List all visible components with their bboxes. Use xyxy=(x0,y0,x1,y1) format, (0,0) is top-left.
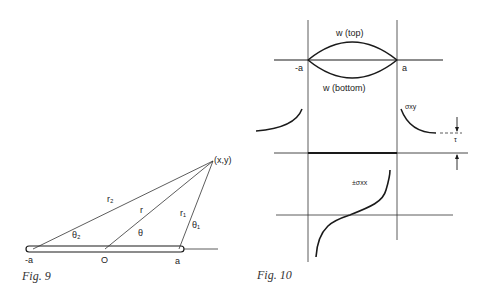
ray-r2 xyxy=(33,161,213,249)
fig10-caption: Fig. 10 xyxy=(256,268,292,282)
sigma-xx-label: ±σxx xyxy=(352,179,368,186)
w-top-curve xyxy=(308,42,397,60)
tau-arrowhead-up-icon xyxy=(455,154,459,159)
w-top-label: w (top) xyxy=(335,28,364,38)
r-label: r xyxy=(140,205,143,215)
r2-label: r₂ xyxy=(107,194,114,204)
neg-a-label: -a xyxy=(25,255,33,265)
w-bottom-label: w (bottom) xyxy=(322,83,366,93)
theta2-label: θ₂ xyxy=(72,230,81,240)
theta-label: θ xyxy=(138,228,143,238)
fig10-diagram: w (top) w (bottom) -a a σxy τ ±σxx Fig. … xyxy=(256,20,468,282)
tau-arrowhead-down-icon xyxy=(455,127,459,132)
sigma-xy-right-curve xyxy=(401,109,436,133)
theta1-label: θ₁ xyxy=(192,220,200,230)
w-bottom-curve xyxy=(308,60,397,78)
a-label: a xyxy=(175,256,180,266)
sigma-xy-left-curve xyxy=(256,109,302,131)
fig9-caption: Fig. 9 xyxy=(21,269,51,283)
r1-label: r₁ xyxy=(180,208,186,218)
point-label: (x,y) xyxy=(214,155,232,165)
a-label: a xyxy=(402,63,407,73)
neg-a-label: -a xyxy=(295,63,303,73)
figure-canvas: (x,y) r₂ r r₁ θ₂ θ θ₁ -a O a Fig. 9 w (t… xyxy=(0,0,487,283)
fig9-diagram: (x,y) r₂ r r₁ θ₂ θ θ₁ -a O a Fig. 9 xyxy=(21,155,232,283)
origin-label: O xyxy=(101,255,108,265)
ray-r1 xyxy=(179,161,213,249)
sigma-xy-label: σxy xyxy=(405,103,417,111)
tau-label: τ xyxy=(454,136,457,143)
ray-r xyxy=(105,161,213,249)
